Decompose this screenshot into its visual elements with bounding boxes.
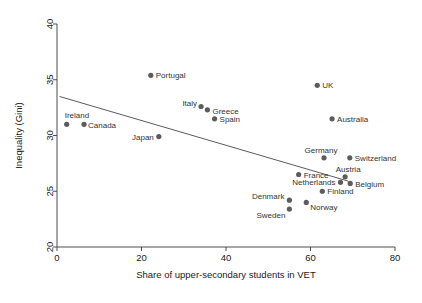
trend-line bbox=[60, 96, 349, 181]
y-tick-label: 30 bbox=[44, 130, 55, 141]
data-point-label: Sweden bbox=[256, 211, 285, 220]
data-point-label: Germany bbox=[305, 146, 338, 155]
scatter-chart: 2025303540020406080Inequality (Gini)Shar… bbox=[0, 0, 422, 303]
data-point[interactable] bbox=[156, 134, 161, 139]
data-point[interactable] bbox=[348, 181, 353, 186]
y-axis-title: Inequality (Gini) bbox=[13, 102, 24, 169]
data-point[interactable] bbox=[212, 116, 217, 121]
x-tick-label: 60 bbox=[305, 252, 316, 263]
data-point-label: Japan bbox=[132, 133, 154, 142]
data-point-label: Italy bbox=[182, 99, 197, 108]
data-point-label: Australia bbox=[337, 115, 369, 124]
y-tick-label: 25 bbox=[44, 186, 55, 197]
data-point-label: Austria bbox=[336, 165, 361, 174]
data-point-label: UK bbox=[322, 81, 334, 90]
y-tick-label: 20 bbox=[44, 242, 55, 253]
data-point[interactable] bbox=[315, 83, 320, 88]
data-point[interactable] bbox=[329, 116, 334, 121]
data-point[interactable] bbox=[198, 104, 203, 109]
x-axis-title: Share of upper-secondary students in VET bbox=[136, 269, 316, 280]
data-point-label: Canada bbox=[88, 121, 117, 130]
data-point[interactable] bbox=[320, 189, 325, 194]
data-point[interactable] bbox=[81, 122, 86, 127]
data-point-label: Spain bbox=[220, 115, 240, 124]
data-point[interactable] bbox=[64, 122, 69, 127]
data-point[interactable] bbox=[304, 200, 309, 205]
data-point[interactable] bbox=[287, 206, 292, 211]
x-tick-label: 80 bbox=[390, 252, 401, 263]
data-point[interactable] bbox=[296, 172, 301, 177]
data-point[interactable] bbox=[148, 73, 153, 78]
x-tick-label: 40 bbox=[221, 252, 232, 263]
x-tick-label: 0 bbox=[54, 252, 59, 263]
y-tick-label: 35 bbox=[44, 74, 55, 85]
data-point[interactable] bbox=[205, 107, 210, 112]
data-point-label: Norway bbox=[310, 203, 337, 212]
data-point-label: Finland bbox=[327, 187, 353, 196]
plot-canvas: 2025303540020406080Inequality (Gini)Shar… bbox=[0, 0, 422, 303]
data-point[interactable] bbox=[321, 155, 326, 160]
data-point[interactable] bbox=[338, 180, 343, 185]
data-point[interactable] bbox=[343, 174, 348, 179]
data-point-label: Denmark bbox=[252, 192, 285, 201]
x-tick-label: 20 bbox=[136, 252, 147, 263]
data-point-label: Ireland bbox=[65, 111, 89, 120]
y-tick-label: 40 bbox=[44, 19, 55, 30]
data-point-label: Belgium bbox=[355, 180, 384, 189]
data-point-label: Switzerland bbox=[355, 154, 396, 163]
data-point[interactable] bbox=[287, 198, 292, 203]
data-point-label: Netherlands bbox=[292, 178, 335, 187]
data-point[interactable] bbox=[347, 155, 352, 160]
data-point-label: Portugal bbox=[156, 71, 186, 80]
clipped-title bbox=[0, 0, 422, 7]
